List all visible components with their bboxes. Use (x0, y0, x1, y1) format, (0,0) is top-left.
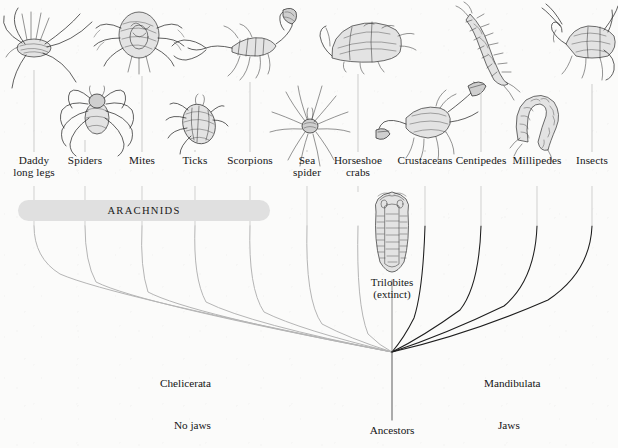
chelicerata-trait-1: No jaws (160, 418, 285, 432)
taxon-label-mites[interactable]: Mites (115, 155, 169, 167)
taxon-label-insects[interactable]: Insects (566, 155, 618, 167)
chelicerata-title: Chelicerata (160, 376, 285, 390)
taxon-label-ticks[interactable]: Ticks (170, 155, 220, 167)
arachnids-banner-label: ARACHNIDS (18, 200, 270, 221)
taxon-label-trilobites[interactable]: Trilobites (extinct) (352, 276, 432, 300)
branch-daddy-long-legs (34, 226, 392, 352)
taxon-label-horseshoe-crabs[interactable]: Horseshoe crabs (325, 155, 391, 179)
label-stem-group (34, 70, 592, 152)
taxon-label-spiders[interactable]: Spiders (54, 155, 116, 167)
branch-spiders (85, 226, 392, 352)
group-block-chelicerata: Chelicerata No jaws 4 pairs of legs No a… (160, 348, 285, 448)
root-label-ancestors: Ancestors (347, 424, 437, 436)
phylogeny-figure: ARACHNIDS Daddy long legs Spiders Mites … (0, 0, 618, 448)
taxon-label-scorpions[interactable]: Scorpions (215, 155, 285, 167)
taxon-label-millipedes[interactable]: Millipedes (501, 155, 573, 167)
arachnids-banner: ARACHNIDS (18, 200, 270, 221)
group-block-mandibulata: Mandibulata Jaws 3 or more pairs of legs… (484, 348, 599, 448)
mandibulata-trait-1: Jaws (484, 418, 599, 432)
mandibulata-title: Mandibulata (484, 376, 599, 390)
